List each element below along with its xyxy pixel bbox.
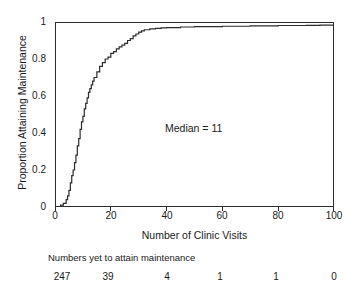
risk-value-40: 4: [164, 272, 170, 282]
risk-value-100: 0: [331, 272, 337, 282]
chart-figure: 1 0.8 0.6 0.4 0.2 0 0 20 40 60 80 100 Pr…: [0, 0, 357, 294]
risk-value-20: 39: [102, 272, 113, 282]
risk-value-60: 1: [217, 272, 223, 282]
risk-value-80: 1: [273, 272, 279, 282]
risk-table-values: 247 39 4 1 1 0: [0, 0, 357, 294]
risk-value-0: 247: [54, 272, 71, 282]
